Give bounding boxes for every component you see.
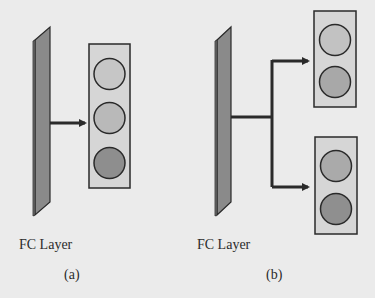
fc-layer-label-a: FC Layer <box>19 237 72 253</box>
output-box-b-bottom <box>315 137 357 234</box>
node-b-top-2 <box>320 67 351 98</box>
fc-layer-a <box>33 27 50 216</box>
panel-a <box>33 27 130 216</box>
node-b-bottom-1 <box>321 151 352 182</box>
node-b-bottom-2 <box>321 194 352 225</box>
caption-b: (b) <box>266 267 282 283</box>
node-b-top-1 <box>320 25 351 56</box>
caption-a: (a) <box>64 267 80 283</box>
node-a-1 <box>94 59 125 90</box>
figure-canvas: FC Layer (a) FC Layer (b) <box>0 0 375 298</box>
node-a-3 <box>94 148 125 179</box>
output-box-b-top <box>314 11 356 107</box>
fc-layer-label-b: FC Layer <box>197 237 250 253</box>
output-box-a <box>89 44 130 188</box>
fc-layer-b <box>215 27 231 216</box>
branch-arrows-b <box>231 60 308 187</box>
node-a-2 <box>94 103 125 134</box>
architecture-diagram <box>0 0 375 298</box>
panel-b <box>215 11 357 234</box>
